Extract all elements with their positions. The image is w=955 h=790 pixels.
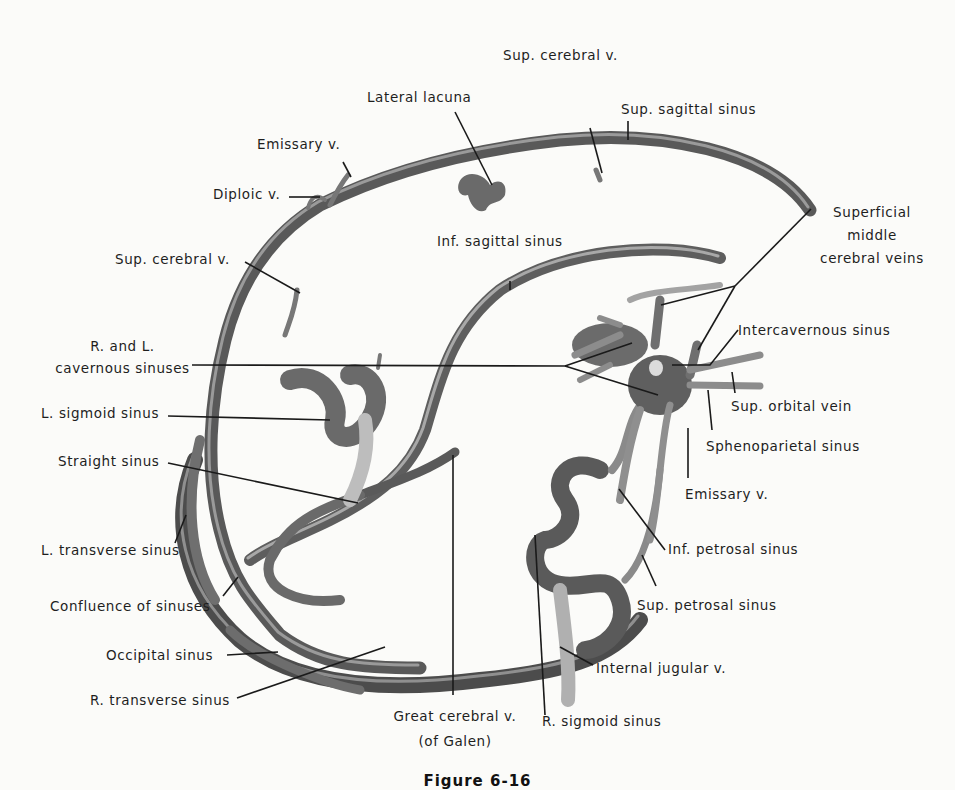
label-sphenoparietal-sinus: Sphenoparietal sinus — [706, 438, 860, 454]
label-confluence-of-sinuses: Confluence of sinuses — [50, 598, 210, 614]
label-line-2: middle — [812, 224, 932, 247]
inf-sagittal-sinus-vessel — [248, 247, 720, 601]
label-lateral-lacuna: Lateral lacuna — [367, 89, 472, 105]
label-inf-sagittal-sinus: Inf. sagittal sinus — [437, 233, 563, 249]
label-inf-petrosal-sinus: Inf. petrosal sinus — [668, 541, 798, 557]
label-emissary-v-top: Emissary v. — [257, 136, 340, 152]
label-great-cerebral-v: Great cerebral v. (of Galen) — [370, 704, 540, 754]
label-l-sigmoid-sinus: L. sigmoid sinus — [41, 405, 159, 421]
label-line-1: Superficial — [812, 201, 932, 224]
label-superficial-middle-cerebral-veins: Superficial middle cerebral veins — [812, 201, 932, 270]
label-sup-sagittal-sinus: Sup. sagittal sinus — [621, 101, 756, 117]
label-l-transverse-sinus: L. transverse sinus — [41, 542, 180, 558]
label-line-1: R. and L. — [50, 335, 195, 357]
label-line-1: Great cerebral v. — [370, 704, 540, 729]
l-sigmoid-sinus-vessel — [290, 374, 376, 500]
label-line-2: (of Galen) — [370, 729, 540, 754]
label-sup-orbital-vein: Sup. orbital vein — [731, 398, 852, 414]
label-r-transverse-sinus: R. transverse sinus — [90, 692, 230, 708]
figure-caption: Figure 6-16 — [0, 772, 955, 790]
label-sup-cerebral-v-left: Sup. cerebral v. — [115, 251, 230, 267]
label-sup-petrosal-sinus: Sup. petrosal sinus — [637, 597, 777, 613]
label-sup-cerebral-v-top: Sup. cerebral v. — [503, 47, 618, 63]
label-straight-sinus: Straight sinus — [58, 453, 159, 469]
label-emissary-v-right: Emissary v. — [685, 486, 768, 502]
label-intercavernous-sinus: Intercavernous sinus — [738, 322, 890, 338]
label-r-sigmoid-sinus: R. sigmoid sinus — [542, 713, 661, 729]
label-diploic-v: Diploic v. — [213, 186, 280, 202]
label-line-3: cerebral veins — [812, 247, 932, 270]
r-sigmoid-sinus-vessel — [535, 400, 660, 700]
sup-sagittal-sinus-vessel — [209, 135, 810, 668]
label-internal-jugular-v: Internal jugular v. — [596, 660, 726, 676]
label-line-2: cavernous sinuses — [50, 357, 195, 379]
lateral-lacuna-vessel — [458, 174, 505, 211]
label-cavernous-sinuses: R. and L. cavernous sinuses — [50, 335, 195, 379]
label-occipital-sinus: Occipital sinus — [106, 647, 213, 663]
